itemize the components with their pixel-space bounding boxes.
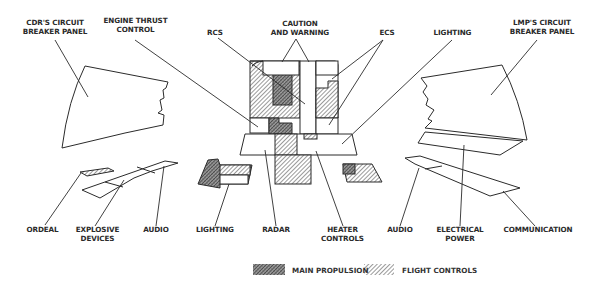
leader-audio-right — [400, 168, 419, 226]
cdr-circuit-breaker-panel — [62, 66, 168, 148]
label-lmp-circuit-breaker-panel: LMP'S CIRCUIT BREAKER PANEL — [502, 18, 582, 36]
diagram-graphics — [0, 0, 591, 297]
legend-swatch-flight-controls — [364, 264, 394, 275]
label-rcs: RCS — [200, 28, 230, 37]
label-radar: RADAR — [255, 225, 297, 234]
label-lighting-top: LIGHTING — [425, 28, 480, 37]
leader-communication — [503, 191, 535, 226]
label-cdr-circuit-breaker-panel: CDR'S CIRCUIT BREAKER PANEL — [10, 18, 100, 36]
legend-label-main-propulsion: MAIN PROPULSION — [292, 266, 368, 275]
center-console — [240, 61, 357, 184]
label-lighting-bottom: LIGHTING — [190, 225, 240, 234]
label-caution-and-warning: CAUTION AND WARNING — [260, 19, 340, 37]
label-electrical-power: ELECTRICAL POWER — [432, 225, 488, 243]
leader-electrical — [460, 145, 464, 226]
leader-lighting-bottom — [215, 184, 229, 226]
leader-heater — [316, 151, 343, 226]
label-explosive-devices: EXPLOSIVE DEVICES — [70, 225, 125, 243]
leader-cdr — [55, 40, 88, 97]
label-engine-thrust-control: ENGINE THRUST CONTROL — [93, 16, 178, 34]
label-audio-right: AUDIO — [382, 225, 418, 234]
legend-swatch-main-propulsion — [253, 264, 285, 275]
label-communication: COMMUNICATION — [498, 225, 578, 234]
leader-radar — [265, 150, 276, 226]
label-heater-controls: HEATER CONTROLS — [315, 225, 370, 243]
leader-ordeal — [45, 173, 81, 225]
legend-label-flight-controls: FLIGHT CONTROLS — [402, 266, 477, 275]
label-audio-left: AUDIO — [138, 225, 174, 234]
leader-audio-left — [156, 166, 164, 226]
ordeal-panel — [80, 168, 114, 176]
label-ecs: ECS — [372, 28, 402, 37]
label-ordeal: ORDEAL — [20, 225, 65, 234]
lm-panel-diagram: CDR'S CIRCUIT BREAKER PANEL ENGINE THRUS… — [0, 0, 591, 297]
lmp-circuit-breaker-panel — [421, 65, 527, 140]
